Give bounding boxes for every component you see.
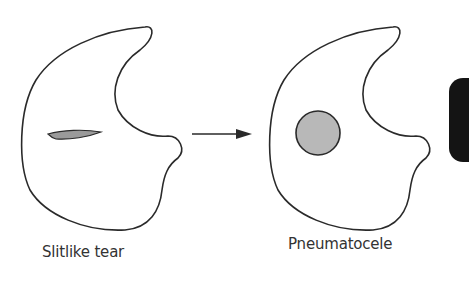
pneumatocele-cavity — [296, 111, 340, 155]
diagram-canvas: Slitlike tear Pneumatocele — [0, 0, 469, 288]
lung-outline-left — [22, 27, 182, 230]
arrow-head-icon — [236, 129, 252, 139]
label-slitlike-tear: Slitlike tear — [42, 243, 124, 261]
label-pneumatocele: Pneumatocele — [288, 235, 392, 253]
lung-outline-right — [270, 27, 430, 230]
edge-tab — [449, 78, 469, 162]
